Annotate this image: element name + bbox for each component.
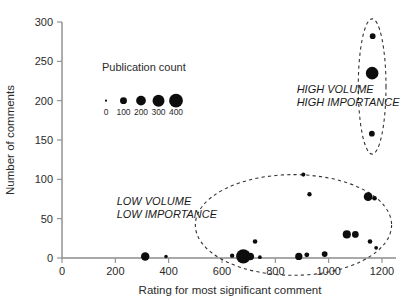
- legend-bubbles: [105, 94, 183, 108]
- x-tick-label: 400: [159, 265, 177, 277]
- data-point: [304, 252, 309, 257]
- chart-canvas: 050100150200250300 020040060080010001200…: [0, 0, 411, 303]
- legend-size-label: 300: [151, 107, 165, 117]
- y-tick-label: 100: [35, 173, 53, 185]
- data-point: [343, 230, 351, 238]
- y-tick-label: 250: [35, 55, 53, 67]
- y-axis-ticks: 050100150200250300: [35, 16, 62, 264]
- x-tick-label: 200: [106, 265, 124, 277]
- data-point: [164, 255, 167, 258]
- legend-size-label: 100: [116, 107, 130, 117]
- legend-size-label: 200: [134, 107, 148, 117]
- legend-bubble: [153, 95, 165, 107]
- legend-bubble: [136, 96, 146, 106]
- y-tick-label: 300: [35, 16, 53, 28]
- data-point: [368, 239, 373, 244]
- low-volume-cluster-ellipse: [195, 175, 391, 276]
- x-axis-title: Rating for most significant comment: [139, 284, 323, 296]
- bubble-chart-figure: 050100150200250300 020040060080010001200…: [0, 0, 411, 303]
- data-point: [364, 192, 373, 201]
- y-tick-label: 50: [41, 213, 53, 225]
- y-tick-label: 150: [35, 134, 53, 146]
- axes-group: 050100150200250300 020040060080010001200: [35, 16, 396, 277]
- legend-title: Publication count: [102, 61, 186, 73]
- y-tick-label: 0: [47, 252, 53, 264]
- data-point: [301, 173, 305, 177]
- data-point: [352, 231, 359, 238]
- legend-bubble: [105, 100, 107, 102]
- legend-bubble: [169, 94, 183, 108]
- data-point: [369, 131, 375, 137]
- data-point: [374, 246, 378, 250]
- x-tick-label: 600: [213, 265, 231, 277]
- y-tick-label: 200: [35, 95, 53, 107]
- data-point: [230, 253, 234, 257]
- data-point: [246, 253, 254, 261]
- x-tick-label: 1000: [316, 265, 340, 277]
- data-point: [295, 253, 302, 260]
- legend-size-labels: 0100200300400: [104, 107, 184, 117]
- x-tick-label: 0: [59, 265, 65, 277]
- y-axis-title: Number of comments: [4, 85, 16, 195]
- data-point: [258, 255, 262, 259]
- legend-size-label: 0: [104, 107, 109, 117]
- data-point: [370, 33, 376, 39]
- legend-bubble: [120, 97, 127, 104]
- x-tick-label: 800: [266, 265, 284, 277]
- data-point: [253, 239, 258, 244]
- data-point: [141, 252, 149, 260]
- high-volume-cluster-label: HIGH IMPORTANCE: [297, 96, 401, 108]
- x-axis-ticks: 020040060080010001200: [59, 258, 394, 277]
- low-volume-cluster-label: LOW IMPORTANCE: [117, 208, 218, 220]
- data-point: [366, 67, 379, 80]
- cluster-annotations: HIGH VOLUMEHIGH IMPORTANCELOW VOLUMELOW …: [117, 19, 401, 275]
- high-volume-cluster-label: HIGH VOLUME: [297, 83, 375, 95]
- data-point: [322, 251, 328, 257]
- low-volume-cluster-label: LOW VOLUME: [117, 195, 192, 207]
- legend-size-label: 400: [169, 107, 183, 117]
- size-legend: Publication count 0100200300400: [102, 61, 186, 117]
- data-point: [372, 196, 377, 201]
- x-tick-label: 1200: [370, 265, 394, 277]
- data-point: [307, 192, 311, 196]
